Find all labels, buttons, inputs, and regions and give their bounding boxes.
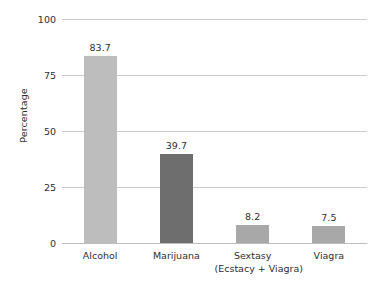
bar-marijuana[interactable]	[160, 154, 193, 243]
bar-value-label: 39.7	[166, 140, 187, 151]
y-tick-label-75: 75	[44, 70, 56, 81]
x-label-line1: Marijuana	[138, 249, 214, 262]
bars-layer: 83.739.78.27.5	[62, 19, 367, 243]
x-axis-labels: AlcoholMarijuanaSextasy(Ecstacy + Viagra…	[62, 249, 367, 291]
bar-group[interactable]: 83.7	[84, 19, 117, 243]
bar-alcohol[interactable]	[84, 56, 117, 243]
y-tick-label-50: 50	[44, 126, 56, 137]
x-label-sextasy: Sextasy(Ecstacy + Viagra)	[215, 249, 291, 275]
y-tick-label-100: 100	[38, 14, 56, 25]
bar-group[interactable]: 7.5	[312, 19, 345, 243]
y-tick-label-25: 25	[44, 182, 56, 193]
x-label-line1: Viagra	[291, 249, 367, 262]
x-label-alcohol: Alcohol	[62, 249, 138, 262]
plot-area: 0255075100 83.739.78.27.5	[62, 19, 367, 243]
bar-group[interactable]: 8.2	[236, 19, 269, 243]
bar-sextasy[interactable]	[236, 225, 269, 243]
x-label-line1: Sextasy	[215, 249, 291, 262]
x-label-viagra: Viagra	[291, 249, 367, 262]
bar-value-label: 7.5	[321, 212, 336, 223]
bar-value-label: 83.7	[90, 42, 111, 53]
x-label-line1: Alcohol	[62, 249, 138, 262]
x-label-line2: (Ecstacy + Viagra)	[215, 262, 291, 275]
bar-group[interactable]: 39.7	[160, 19, 193, 243]
x-label-marijuana: Marijuana	[138, 249, 214, 262]
bar-viagra[interactable]	[312, 226, 345, 243]
bar-chart: Percentage 0255075100 83.739.78.27.5 Alc…	[0, 0, 383, 292]
y-axis-title: Percentage	[18, 71, 29, 161]
gridline-0: 0	[62, 243, 367, 244]
bar-value-label: 8.2	[245, 211, 260, 222]
y-tick-label-0: 0	[50, 238, 56, 249]
